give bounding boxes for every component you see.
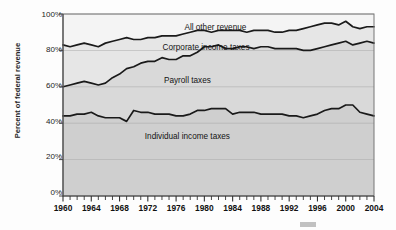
x-tick-1968: 1968 xyxy=(105,204,135,213)
series-label-payroll-taxes: Payroll taxes xyxy=(164,75,211,84)
x-tick-1960: 1960 xyxy=(48,204,78,213)
series-label-all-other-revenue: All other revenue xyxy=(184,22,246,31)
x-tick-1972: 1972 xyxy=(133,204,163,213)
x-tick-1980: 1980 xyxy=(189,204,219,213)
chart-container: Percent of federal revenue 100% 80% 60% … xyxy=(0,0,396,230)
x-tick-2000: 2000 xyxy=(331,204,361,213)
series-label-corporate-income-taxes: Corporate income taxes xyxy=(163,42,250,51)
x-tick-1992: 1992 xyxy=(274,204,304,213)
series-label-individual-income-taxes: Individual income taxes xyxy=(145,131,230,140)
x-tick-1976: 1976 xyxy=(161,204,191,213)
x-tick-1996: 1996 xyxy=(302,204,332,213)
x-tick-2004: 2004 xyxy=(359,204,389,213)
plot-area xyxy=(0,0,396,230)
x-tick-1988: 1988 xyxy=(246,204,276,213)
x-tick-1984: 1984 xyxy=(218,204,248,213)
page-footer-mark xyxy=(300,222,316,227)
x-tick-1964: 1964 xyxy=(76,204,106,213)
